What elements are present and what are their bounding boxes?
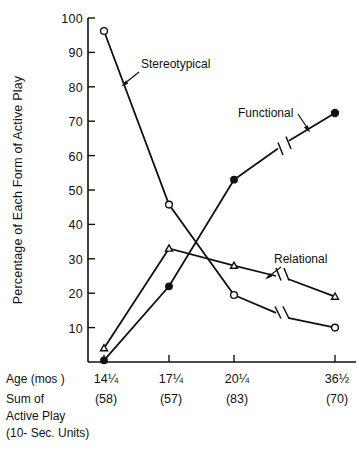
y-axis-title: Percentage of Each Form of Active Play	[11, 75, 25, 304]
chart-figure: 100 90 80 70 60 50 40 30 20 10 Percentag…	[0, 0, 364, 450]
x-sum-label-1: (57)	[160, 392, 182, 406]
annotation-functional: Functional	[238, 106, 310, 133]
annotation-functional-label: Functional	[238, 106, 293, 120]
x-tick-label-2: 20¼	[225, 372, 250, 386]
stereotypical-point-3	[332, 324, 339, 331]
relational-line-seg1	[104, 249, 234, 349]
x-axis-caption-block: Age (mos ) Sum of Active Play (10- Sec. …	[6, 372, 89, 440]
x-sum-label-2: (83)	[226, 392, 248, 406]
series-functional	[101, 109, 339, 363]
y-tick-label-100: 100	[61, 12, 83, 26]
y-tick-label-20: 20	[68, 287, 83, 301]
stereotypical-line-seg3	[288, 318, 335, 328]
x-sum-label-3: (70)	[326, 392, 348, 406]
sum-caption-line-3: (10- Sec. Units)	[6, 426, 89, 440]
annotation-stereotypical-label: Stereotypical	[141, 57, 210, 71]
stereotypical-line-seg2	[234, 295, 276, 313]
y-tick-label-90: 90	[68, 46, 83, 60]
functional-point-2	[231, 176, 238, 183]
y-tick-label-60: 60	[68, 150, 83, 164]
y-tick-labels: 100 90 80 70 60 50 40 30 20 10	[61, 12, 83, 336]
functional-point-0	[101, 357, 108, 364]
y-tick-label-50: 50	[68, 184, 83, 198]
relational-point-3	[332, 293, 339, 299]
x-tick-label-1: 17¼	[159, 372, 184, 386]
functional-point-3	[331, 109, 338, 116]
y-tick-label-40: 40	[68, 218, 83, 232]
stereotypical-point-2	[231, 292, 238, 299]
sum-caption-line-2: Active Play	[6, 409, 65, 423]
relational-point-2	[231, 262, 238, 268]
y-tick-label-80: 80	[68, 81, 83, 95]
y-tick-label-70: 70	[68, 115, 83, 129]
relational-line-seg3	[288, 279, 335, 297]
stereotypical-axis-break-icon	[275, 307, 289, 319]
functional-line-seg3	[289, 113, 335, 141]
line-chart-plot: 100 90 80 70 60 50 40 30 20 10 Percentag…	[0, 0, 364, 450]
x-sum-label-0: (58)	[95, 392, 117, 406]
functional-line-seg2	[234, 149, 278, 180]
stereotypical-point-1	[166, 201, 173, 208]
x-tick-labels: 14¼ 17¼ 20¼ 36½	[94, 372, 350, 386]
x-tick-label-0: 14¼	[94, 372, 119, 386]
relational-point-1	[166, 245, 173, 251]
annotation-relational-label: Relational	[274, 252, 327, 266]
x-axis-title: Age (mos )	[6, 372, 65, 386]
y-tick-label-30: 30	[68, 253, 83, 267]
stereotypical-point-0	[101, 28, 108, 35]
functional-axis-break-icon	[278, 137, 291, 156]
y-axis-title-group: Percentage of Each Form of Active Play	[11, 75, 25, 304]
annotation-stereotypical: Stereotypical	[121, 57, 210, 87]
functional-point-1	[166, 283, 173, 290]
y-tick-label-10: 10	[68, 322, 83, 336]
x-tick-marks	[104, 355, 335, 362]
x-tick-label-3: 36½	[325, 372, 350, 386]
sum-caption-line-1: Sum of	[6, 392, 45, 406]
x-sum-labels: (58) (57) (83) (70)	[95, 392, 348, 406]
series-stereotypical	[101, 28, 339, 331]
y-tick-marks	[88, 18, 95, 328]
